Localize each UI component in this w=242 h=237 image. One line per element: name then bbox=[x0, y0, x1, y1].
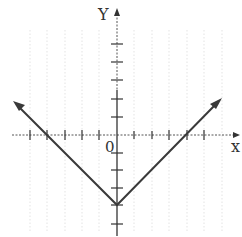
coordinate-plane: Y x 0 bbox=[0, 0, 242, 237]
left-arrow-icon bbox=[13, 101, 25, 111]
x-axis-label: x bbox=[231, 137, 240, 156]
y-axis-label: Y bbox=[97, 5, 109, 24]
grid bbox=[30, 30, 222, 232]
origin-label: 0 bbox=[105, 138, 115, 156]
